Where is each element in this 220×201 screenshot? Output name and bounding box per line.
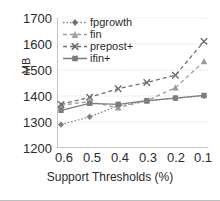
y-tick-1300: 1300 <box>12 115 52 130</box>
legend-label-prepost-plus: prepost+ <box>90 41 133 52</box>
legend-symbol-x-icon <box>62 41 88 52</box>
marker-fpgrowth-0 <box>58 122 64 128</box>
legend-item-prepost-plus: prepost+ <box>62 41 133 53</box>
marker-fpgrowth-1 <box>87 114 93 120</box>
marker-fin-5 <box>201 58 208 64</box>
marker-prepost+-2 <box>115 86 121 92</box>
x-tick-0-5: 0.5 <box>83 150 101 165</box>
marker-ifin+-4 <box>173 95 178 100</box>
legend-label-fpgrowth: fpgrowth <box>90 17 132 28</box>
marker-ifin+-1 <box>87 101 92 106</box>
legend-label-ifin-plus: ifin+ <box>90 53 111 64</box>
x-tick-0-4: 0.4 <box>111 150 129 165</box>
x-tick-0-1: 0.1 <box>194 150 212 165</box>
x-axis-tick-labels: 0.6 0.5 0.4 0.3 0.2 0.1 <box>0 150 220 170</box>
x-tick-0-2: 0.2 <box>167 150 185 165</box>
y-tick-1600: 1600 <box>12 37 52 52</box>
legend-symbol-triangle-icon <box>62 29 88 40</box>
chart-figure: MB 1700 1600 1500 1400 1300 1200 0.6 0.5… <box>0 0 220 201</box>
chart-legend: fpgrowth fin prepost+ ifin+ <box>62 17 133 65</box>
y-tick-1700: 1700 <box>12 11 52 26</box>
legend-symbol-square-icon <box>62 53 88 64</box>
legend-item-fin: fin <box>62 29 133 41</box>
series-line-fin <box>61 61 204 107</box>
marker-ifin+-2 <box>116 102 121 107</box>
legend-symbol-diamond-icon <box>62 17 88 28</box>
legend-item-ifin-plus: ifin+ <box>62 53 133 65</box>
marker-ifin+-5 <box>201 93 206 98</box>
legend-item-fpgrowth: fpgrowth <box>62 17 133 29</box>
x-tick-0-3: 0.3 <box>139 150 157 165</box>
x-axis-title: Support Thresholds (%) <box>0 170 220 184</box>
y-tick-1500: 1500 <box>12 63 52 78</box>
series-line-fpgrowth <box>61 96 204 125</box>
x-tick-0-6: 0.6 <box>55 150 73 165</box>
marker-prepost+-5 <box>201 38 207 44</box>
legend-label-fin: fin <box>90 29 102 40</box>
marker-ifin+-3 <box>144 98 149 103</box>
marker-ifin+-0 <box>58 108 63 113</box>
y-tick-1400: 1400 <box>12 89 52 104</box>
